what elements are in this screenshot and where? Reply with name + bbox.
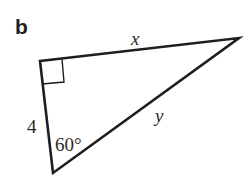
- hypotenuse-label-y: y: [155, 106, 163, 125]
- right-angle-marker-icon: [42, 59, 64, 84]
- angle-label-60: 60°: [55, 135, 82, 154]
- triangle-svg: [0, 0, 246, 187]
- side-label-4: 4: [27, 117, 37, 136]
- part-label: b: [15, 16, 28, 37]
- side-label-x: x: [131, 29, 139, 48]
- triangle-diagram: b x y 4 60°: [0, 0, 246, 187]
